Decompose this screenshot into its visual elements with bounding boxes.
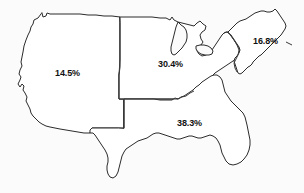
us-map-graphic [0,0,304,193]
northeast-label-leader [286,42,292,45]
region-label-northeast: 16.8% [253,37,278,46]
region-label-west: 14.5% [55,69,80,78]
region-label-midwest: 30.4% [158,60,183,69]
us-region-map-figure: 14.5% 30.4% 16.8% 38.3% [0,0,304,193]
region-label-south: 38.3% [177,119,202,128]
